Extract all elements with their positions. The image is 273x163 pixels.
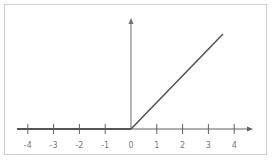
y-axis-arrow-icon bbox=[129, 18, 134, 24]
x-tick-label: 1 bbox=[154, 141, 159, 150]
x-tick-label: 2 bbox=[180, 141, 185, 150]
x-tick-label: 0 bbox=[128, 141, 133, 150]
x-axis-arrow-icon bbox=[247, 127, 253, 132]
x-tick-label: 4 bbox=[232, 141, 237, 150]
relu-chart: -4-3-2-101234 bbox=[0, 0, 273, 163]
x-tick-labels: -4-3-2-101234 bbox=[24, 141, 237, 150]
x-tick-label: -4 bbox=[24, 141, 32, 150]
x-tick-label: -3 bbox=[50, 141, 58, 150]
x-tick-label: -2 bbox=[75, 141, 83, 150]
relu-line-positive bbox=[131, 34, 223, 129]
x-tick-label: -1 bbox=[101, 141, 109, 150]
x-tick-label: 3 bbox=[206, 141, 211, 150]
